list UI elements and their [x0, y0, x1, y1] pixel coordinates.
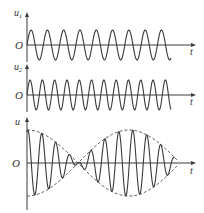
panel2-y-label: u2 [14, 62, 22, 73]
panel3-y-label: u [15, 117, 20, 127]
panel3-origin-label: O [12, 158, 20, 169]
panel1-y-label: u1 [14, 8, 22, 19]
y-axis-arrow-icon [25, 117, 29, 122]
waveform-canvas [0, 0, 204, 213]
panel2-origin-label: O [15, 90, 23, 101]
panel3-t-label: t [190, 166, 193, 176]
beat-diagram: u1 O t u2 O t u O t [0, 0, 204, 213]
panel1-t-label: t [190, 47, 193, 57]
panel2-t-label: t [190, 97, 193, 107]
y-axis-arrow-icon [25, 64, 29, 69]
panel1-origin-label: O [15, 40, 23, 51]
y-axis-arrow-icon [25, 12, 29, 17]
